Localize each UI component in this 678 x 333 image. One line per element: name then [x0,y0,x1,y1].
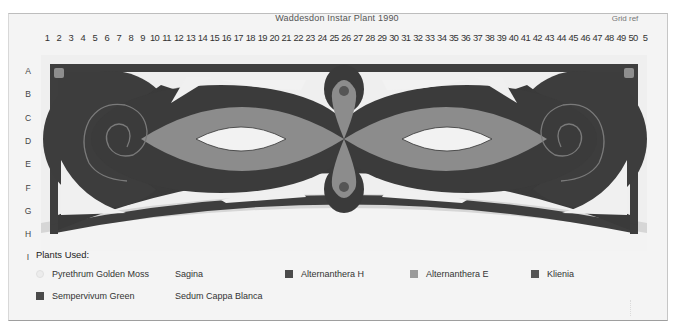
column-label: 21 [280,32,292,43]
column-label: 48 [603,32,615,43]
column-label: 13 [185,32,197,43]
column-label: 30 [388,32,400,43]
square-swatch-icon [285,270,293,278]
legend-item-sagina: Sagina [175,268,203,280]
row-label: A [18,66,38,76]
square-swatch-icon [531,270,539,278]
column-label: 25 [328,32,340,43]
legend-label: Sagina [175,269,203,279]
column-label: 16 [220,32,232,43]
column-label: 39 [495,32,507,43]
legend-item-alternanthera-e: Alternanthera E [410,268,489,280]
column-label: 32 [412,32,424,43]
column-label: 4 [77,32,89,43]
column-label: 37 [472,32,484,43]
circle-swatch-icon [36,270,44,278]
legend-label: Sedum Cappa Blanca [175,291,263,301]
grid-ref-label: Grid ref [595,14,655,23]
row-label: G [18,206,38,216]
column-label: 45 [567,32,579,43]
column-label: 42 [531,32,543,43]
column-label: 47 [591,32,603,43]
row-label: D [18,136,38,146]
column-label: 41 [519,32,531,43]
column-label: 17 [232,32,244,43]
column-label: 1 [41,32,53,43]
column-label: 24 [316,32,328,43]
column-label: 28 [364,32,376,43]
legend-title: Plants Used: [36,249,89,260]
legend-item-sedum-cappa-blanca: Sedum Cappa Blanca [175,290,263,302]
column-label: 50 [627,32,639,43]
column-label: 14 [196,32,208,43]
column-label: 36 [460,32,472,43]
column-label: 44 [555,32,567,43]
plan-title: Waddesdon Instar Plant 1990 [257,14,417,23]
resize-grip[interactable] [630,300,639,316]
column-label: 29 [376,32,388,43]
column-label: 35 [448,32,460,43]
column-label: 11 [161,32,173,43]
column-label: 20 [268,32,280,43]
column-label: 3 [65,32,77,43]
square-swatch-icon [410,270,418,278]
column-label: 34 [436,32,448,43]
row-label: C [18,113,38,123]
column-label: 43 [543,32,555,43]
column-label: 26 [340,32,352,43]
square-swatch-icon [36,292,44,300]
legend-label: Sempervivum Green [52,291,135,301]
legend-label: Pyrethrum Golden Moss [52,269,149,279]
legend-label: Klienia [547,269,574,279]
legend-item-sempervivum-green: Sempervivum Green [36,290,135,302]
column-label: 33 [424,32,436,43]
column-label: 38 [484,32,496,43]
legend-label: Alternanthera H [301,269,364,279]
row-label: H [18,229,38,239]
column-label: 15 [208,32,220,43]
row-label: F [18,183,38,193]
row-axis: ABCDEFGHI [18,58,38,268]
column-label: 46 [579,32,591,43]
column-label: 49 [615,32,627,43]
row-label: B [18,89,38,99]
flower-bed-design[interactable] [41,55,647,251]
legend-item-klienia: Klienia [531,268,574,280]
column-label: 9 [137,32,149,43]
column-label: 19 [256,32,268,43]
column-label: 22 [292,32,304,43]
legend-item-alternanthera-h: Alternanthera H [285,268,364,280]
column-label: 18 [244,32,256,43]
legend-item-pyrethrum-golden-moss: Pyrethrum Golden Moss [36,268,149,280]
column-label: 5 [639,32,651,43]
column-label: 8 [125,32,137,43]
column-label: 31 [400,32,412,43]
column-axis: 1234567891011121314151617181920212223242… [36,32,651,46]
column-label: 7 [113,32,125,43]
column-label: 12 [173,32,185,43]
column-label: 6 [101,32,113,43]
legend-label: Alternanthera E [426,269,489,279]
column-label: 10 [149,32,161,43]
column-label: 40 [507,32,519,43]
row-label: I [18,252,38,262]
column-label: 27 [352,32,364,43]
column-label: 23 [304,32,316,43]
row-label: E [18,159,38,169]
column-label: 5 [89,32,101,43]
column-label: 2 [53,32,65,43]
